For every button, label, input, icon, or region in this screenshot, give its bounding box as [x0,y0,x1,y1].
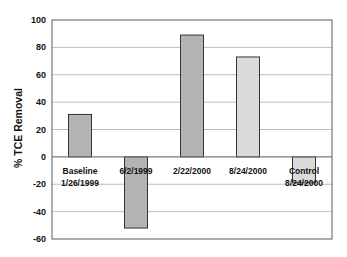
y-tick-label: 100 [31,15,46,25]
y-tick-label: 0 [41,152,46,162]
category-label: 8/24/2000 [229,166,267,176]
y-tick-label: 80 [36,42,46,52]
category-label: 6/2/1999 [119,166,152,176]
y-tick-label: -60 [33,234,46,244]
y-tick-label: -40 [33,207,46,217]
y-tick-label: 20 [36,125,46,135]
y-tick-label: 40 [36,97,46,107]
bar [181,35,204,157]
category-label: Baseline [63,166,98,176]
y-tick-label: -20 [33,179,46,189]
y-axis-label: % TCE Removal [12,88,24,168]
bars [69,35,316,228]
bar [237,57,260,157]
bar [69,114,92,156]
y-tick-label: 60 [36,70,46,80]
category-label: 2/22/2000 [173,166,211,176]
category-label: 8/24/2000 [285,178,323,188]
y-axis-ticks: 100806040200-20-40-60 [31,15,46,244]
bar-chart: 100806040200-20-40-60 Baseline1/26/19996… [0,0,347,257]
category-label: 1/26/1999 [61,178,99,188]
category-label: Control [289,166,319,176]
